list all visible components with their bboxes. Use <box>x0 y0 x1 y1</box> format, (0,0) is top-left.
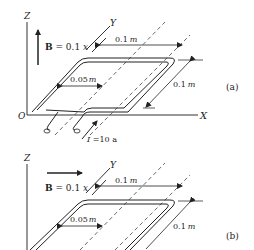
panel-b: Z B = 0.1 x Y 0.1m 0.05m 0.1m (b) <box>23 153 239 250</box>
svg-text:0.1m: 0.1m <box>173 80 196 89</box>
z-axis-label: Z <box>23 11 31 21</box>
z-axis-label: Z <box>23 153 31 163</box>
b-field-label: B = 0.1 x <box>45 183 88 193</box>
svg-text:0.05m: 0.05m <box>70 75 97 84</box>
x-axis-label: X <box>199 110 208 121</box>
current-loop <box>30 200 174 250</box>
panel-a: Z X O B = 0.1 x Y 0.1m 0.05m 0.1m ( <box>18 11 238 144</box>
svg-text:0.1m: 0.1m <box>115 35 138 44</box>
b-field-label: B = 0.1 x <box>45 42 88 52</box>
svg-text:0.1m: 0.1m <box>173 222 196 231</box>
y-axis-label: Y <box>110 18 117 28</box>
y-axis-label: Y <box>110 160 117 170</box>
current-loop-diagram: Z X O B = 0.1 x Y 0.1m 0.05m 0.1m ( <box>0 0 254 250</box>
panel-label-b: (b) <box>226 231 239 241</box>
origin-label: O <box>18 111 26 121</box>
current-label: I =10 a <box>86 135 117 144</box>
svg-text:0.1m: 0.1m <box>115 176 138 185</box>
panel-label-a: (a) <box>226 82 238 92</box>
svg-text:0.05m: 0.05m <box>70 215 97 224</box>
